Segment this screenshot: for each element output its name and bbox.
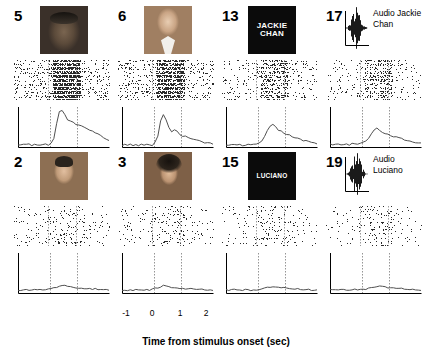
stimulus-word-text: LUCIANO	[256, 173, 287, 180]
stimulus-audio-jackie-chan: Audio Jackie Chan	[344, 6, 422, 54]
panel-17: 17 Audio Jackie Chan	[326, 6, 422, 149]
stimulus-image-face-weathered-man	[40, 6, 88, 54]
panel-number: 15	[222, 154, 239, 169]
audio-waveform-icon	[344, 7, 370, 49]
histogram-plot	[118, 105, 214, 149]
stimulus-image-long-haired-man	[144, 152, 192, 200]
figure-panel-grid: 5 6 13 JACKIE CHAN 17	[0, 0, 432, 353]
panel-header: 13 JACKIE CHAN	[222, 6, 318, 56]
panel-number: 3	[118, 154, 126, 169]
panel-number: 19	[326, 154, 343, 169]
histogram-plot	[222, 105, 318, 149]
panel-2: 2	[14, 152, 110, 295]
raster-plot	[222, 206, 318, 246]
raster-plot	[14, 206, 110, 246]
raster-plot	[222, 60, 318, 100]
stimulus-word-text: JACKIE CHAN	[248, 22, 296, 39]
raster-plot	[14, 60, 110, 100]
histogram-plot	[14, 251, 110, 295]
x-axis-title: Time from stimulus onset (sec)	[0, 336, 432, 347]
panel-header: 5	[14, 6, 110, 56]
panel-13: 13 JACKIE CHAN	[222, 6, 318, 149]
stimulus-word-jackie-chan: JACKIE CHAN	[248, 6, 296, 54]
raster-plot	[118, 60, 214, 100]
x-tick-label: 1	[178, 308, 183, 318]
panel-header: 6	[118, 6, 214, 56]
raster-plot	[326, 206, 422, 246]
histogram-plot	[326, 251, 422, 295]
histogram-plot	[14, 105, 110, 149]
stimulus-word-luciano: LUCIANO	[248, 152, 296, 200]
panel-header: 2	[14, 152, 110, 202]
panel-header: 3	[118, 152, 214, 202]
panel-3: 3	[118, 152, 214, 295]
raster-plot	[326, 60, 422, 100]
panel-number: 6	[118, 8, 126, 23]
stimulus-image-smiling-man-suit	[144, 6, 192, 54]
stimulus-audio-luciano: Audio Luciano	[344, 152, 422, 200]
panel-number: 13	[222, 8, 239, 23]
panel-number: 2	[14, 154, 22, 169]
stimulus-image-young-man-dark-hair	[40, 152, 88, 200]
panel-header: 17 Audio Jackie Chan	[326, 6, 422, 56]
x-tick-label: -1	[122, 308, 130, 318]
panel-6: 6	[118, 6, 214, 149]
x-tick-label: 2	[204, 308, 209, 318]
panel-number: 17	[326, 8, 343, 23]
stimulus-audio-label: Audio Luciano	[373, 154, 422, 176]
panel-5: 5	[14, 6, 110, 149]
histogram-plot	[222, 251, 318, 295]
histogram-plot	[326, 105, 422, 149]
stimulus-audio-label: Audio Jackie Chan	[373, 8, 422, 30]
panel-header: 15 LUCIANO	[222, 152, 318, 202]
raster-plot	[118, 206, 214, 246]
panel-19: 19 Audio Luciano	[326, 152, 422, 295]
audio-waveform-icon	[344, 153, 370, 195]
histogram-plot	[118, 251, 214, 295]
x-tick-label: 0	[150, 308, 155, 318]
panel-header: 19 Audio Luciano	[326, 152, 422, 202]
panel-number: 5	[14, 8, 22, 23]
panel-15: 15 LUCIANO	[222, 152, 318, 295]
